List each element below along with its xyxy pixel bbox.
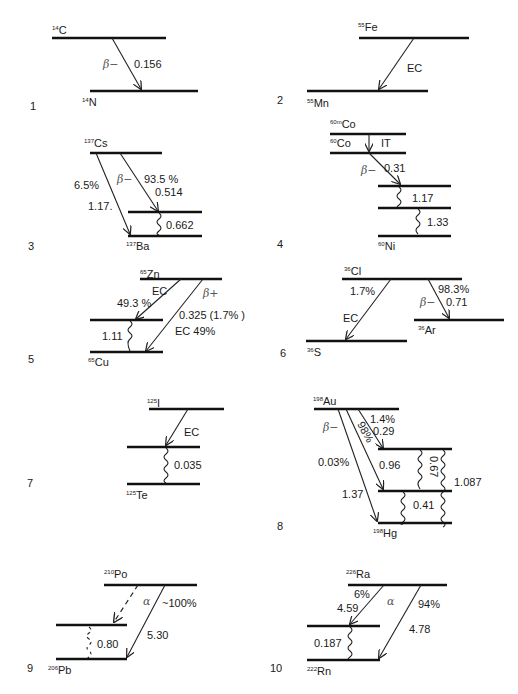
- gamma-133-label: 1.33: [427, 216, 448, 228]
- panel-number: 6: [280, 347, 286, 359]
- gamma-111-label: 1.11: [102, 330, 123, 342]
- gamma-080-wave: [87, 627, 91, 660]
- panel-4-co60-decay: 60mCo 60Co IT β− 0.31 1.17 1.33 60Ni 4: [277, 118, 451, 252]
- alpha-label: α: [143, 595, 151, 608]
- beta-minus-label: β−: [419, 296, 436, 309]
- alpha-minor-arrow: [114, 585, 138, 622]
- daughter-cu65-label: 65Cu: [88, 356, 109, 368]
- energy-117-label: 1.17.: [88, 200, 112, 212]
- co60-label: 60Co: [330, 137, 351, 149]
- gamma-1087-label: 1.087: [454, 476, 482, 488]
- energy-029-label: 0.29: [373, 425, 394, 437]
- gamma-0187-wave: [348, 627, 352, 660]
- branch-1-7-label: 1.7%: [350, 285, 375, 297]
- gamma-041-wave: [401, 492, 405, 524]
- panel-7-i125-decay: 125I EC 0.035 125Te 7: [27, 397, 224, 501]
- ec-label: EC: [152, 285, 167, 297]
- beta-plus-label: β+: [202, 287, 219, 300]
- panel-1-c14-decay: 14C β− 0.156 14N 1: [30, 24, 198, 112]
- gamma-0662-wave: [157, 213, 161, 235]
- energy-530-label: 5.30: [147, 629, 168, 641]
- daughter-ba137-label: 137Ba: [126, 240, 150, 252]
- branch-1-4-label: 1.4%: [370, 413, 395, 425]
- gamma-0662-label: 0.662: [166, 219, 194, 231]
- panel-number: 8: [277, 520, 283, 532]
- alpha-94-arrow: [379, 585, 421, 658]
- daughter-rn222-label: 222Rn: [307, 665, 331, 677]
- panel-number: 7: [27, 477, 33, 489]
- daughter-pb206-label: 206Pb: [48, 664, 71, 676]
- energy-137-label: 1.37: [342, 488, 363, 500]
- parent-ra226-label: 226Ra: [346, 568, 371, 580]
- ec-49-label: EC 49%: [175, 325, 216, 337]
- energy-478-label: 4.78: [409, 623, 430, 635]
- panel-3-cs137-decay: 137Cs β− 93.5 % 0.514 6.5% 1.17. 0.662 1…: [28, 137, 202, 252]
- energy-0514-label: 0.514: [155, 186, 183, 198]
- gamma-111-wave: [128, 321, 132, 351]
- ec-label: EC: [184, 426, 199, 438]
- energy-096-label: 0.96: [379, 459, 400, 471]
- gamma-0187-label: 0.187: [314, 637, 342, 649]
- parent-cl36-label: 36Cl: [344, 265, 361, 277]
- gamma-1087-wave: [441, 450, 445, 527]
- parent-cs137-label: 137Cs: [84, 137, 108, 149]
- gamma-080-label: 0.80: [97, 638, 118, 650]
- panel-8-au198-decay: 198Au β− 1.4% 0.29 98% 0.03% 0.96 1.37 0…: [277, 395, 482, 539]
- daughter-s36-label: 36S: [307, 346, 321, 358]
- daughter-ar36-label: 36Ar: [418, 324, 436, 336]
- ec-label: EC: [343, 312, 358, 324]
- daughter-mn55-label: 55Mn: [307, 97, 329, 109]
- beta-minus-label: β−: [102, 58, 119, 71]
- decay-schemes-figure: 14C β− 0.156 14N 1 55Fe EC 55Mn 2 137Cs …: [0, 0, 518, 694]
- branch-6-label: 6%: [354, 588, 370, 600]
- branch-98-3-label: 98.3%: [438, 283, 469, 295]
- ec-label: EC: [407, 62, 422, 74]
- energy-459-label: 4.59: [337, 602, 358, 614]
- branch-6-label: 6.5%: [74, 179, 99, 191]
- alpha-label: α: [387, 595, 395, 608]
- beta-energy-label: 0.31: [384, 162, 405, 174]
- parent-i125-label: 125I: [147, 397, 160, 409]
- it-label: IT: [381, 137, 391, 149]
- branch-49-3-label: 49.3 %: [117, 297, 151, 309]
- gamma-067-label: 0.67: [428, 456, 440, 477]
- panel-number: 1: [30, 100, 36, 112]
- parent-au198-label: 198Au: [313, 395, 336, 407]
- gamma-0035-label: 0.035: [174, 459, 202, 471]
- daughter-ni60-label: 60Ni: [378, 240, 395, 252]
- beta-energy-label: 0.156: [134, 58, 162, 70]
- energy-0325-label: 0.325 (1.7% ): [179, 309, 245, 321]
- gamma-067-wave: [418, 450, 422, 489]
- panel-number: 4: [277, 238, 283, 250]
- branch-0-03-label: 0.03%: [318, 456, 349, 468]
- gamma-133-wave: [416, 209, 420, 234]
- parent-co60m-label: 60mCo: [330, 118, 356, 130]
- beta-minus-label: β−: [360, 164, 377, 177]
- gamma-041-label: 0.41: [413, 499, 434, 511]
- daughter-te125-label: 125Te: [126, 489, 148, 501]
- panel-number: 5: [28, 353, 34, 365]
- beta-energy-label: 0.71: [446, 296, 467, 308]
- panel-number: 9: [27, 662, 33, 674]
- branch-93-label: 93.5 %: [144, 173, 178, 185]
- beta-minus-label: β−: [116, 173, 133, 186]
- gamma-117-wave: [397, 187, 401, 208]
- panel-9-po210-decay: 210Po α ~100% 5.30 0.80 206Pb 9: [27, 568, 197, 676]
- panel-6-cl36-decay: 36Cl 1.7% EC 98.3% β− 0.71 36Ar 36S 6: [280, 265, 504, 359]
- parent-c14-label: 14C: [52, 24, 67, 36]
- panel-5-zn65-decay: 65Zn EC 49.3 % β+ 0.325 (1.7% ) EC 49% 1…: [28, 268, 245, 368]
- parent-po210-label: 210Po: [104, 568, 127, 580]
- branch-100-label: ~100%: [162, 597, 197, 609]
- beta-minus-label: β−: [322, 421, 339, 434]
- daughter-n14-label: 14N: [82, 96, 97, 108]
- panel-number: 3: [28, 240, 34, 252]
- gamma-117-label: 1.17: [412, 192, 433, 204]
- gamma-0035-wave: [164, 448, 168, 483]
- panel-number: 2: [277, 94, 283, 106]
- panel-number: 10: [270, 662, 282, 674]
- panel-2-fe55-decay: 55Fe EC 55Mn 2: [277, 21, 469, 109]
- daughter-hg198-label: 198Hg: [373, 527, 397, 539]
- panel-10-ra226-decay: 226Ra 6% 4.59 α 94% 4.78 0.187 222Rn 10: [270, 568, 447, 677]
- parent-fe55-label: 55Fe: [358, 21, 378, 33]
- beta-6-arrow: [96, 153, 130, 234]
